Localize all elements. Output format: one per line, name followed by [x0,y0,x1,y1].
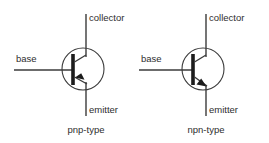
npn-collector-slant [195,55,207,62]
npn-collector-label: collector [209,12,244,23]
npn-emitter-label: emitter [209,104,238,115]
diagram-canvas: collector base emitter pnp-type [0,0,269,143]
pnp-collector-slant [75,55,87,62]
npn-transistor-symbol: collector base emitter npn-type [139,12,244,135]
pnp-collector-label: collector [89,12,124,23]
pnp-base-label: base [16,53,37,64]
transistor-symbols-figure: collector base emitter pnp-type [0,0,269,143]
npn-caption: npn-type [188,124,225,135]
pnp-caption: pnp-type [68,124,105,135]
npn-base-label: base [141,53,162,64]
pnp-transistor-symbol: collector base emitter pnp-type [14,12,124,135]
pnp-emitter-label: emitter [89,104,118,115]
pnp-envelope-circle [62,48,104,90]
